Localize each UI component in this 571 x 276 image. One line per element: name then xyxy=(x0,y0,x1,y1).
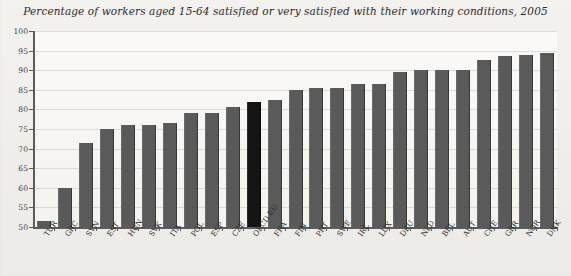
y-axis-tick-label: 100 xyxy=(4,27,28,36)
gridline xyxy=(33,31,557,32)
bar-svn[interactable] xyxy=(79,143,93,227)
bar-deu[interactable] xyxy=(393,72,407,227)
bar-nld[interactable] xyxy=(414,70,428,227)
chart-title: Percentage of workers aged 15-64 satisfi… xyxy=(0,5,571,17)
bar-prt[interactable] xyxy=(309,88,323,227)
bar-bel[interactable] xyxy=(435,70,449,227)
bar-pol[interactable] xyxy=(184,113,198,227)
bar-gbr[interactable] xyxy=(498,56,512,227)
y-axis-tick-label: 95 xyxy=(4,47,28,56)
bar-oecd-eu[interactable] xyxy=(247,102,261,227)
bar-cze[interactable] xyxy=(226,107,240,227)
gridline xyxy=(33,51,557,52)
bar-svk[interactable] xyxy=(142,125,156,227)
y-axis-tick-label: 90 xyxy=(4,66,28,75)
chart-page: Percentage of workers aged 15-64 satisfi… xyxy=(0,0,571,276)
y-axis-tick-label: 80 xyxy=(4,105,28,114)
bar-dnk[interactable] xyxy=(540,53,554,227)
x-axis-category-labels: TURGRCSVNESTHUNSVKITAPOLESPCZEOECD EUFRA… xyxy=(33,233,558,276)
bar-ita[interactable] xyxy=(163,123,177,227)
bar-irl[interactable] xyxy=(351,84,365,227)
y-axis-tick-label: 55 xyxy=(4,203,28,212)
bar-che[interactable] xyxy=(477,60,491,227)
bar-aut[interactable] xyxy=(456,70,470,227)
bar-fin[interactable] xyxy=(289,90,303,227)
bar-hun[interactable] xyxy=(121,125,135,227)
bar-nor[interactable] xyxy=(519,55,533,227)
y-axis-tick-label: 85 xyxy=(4,86,28,95)
y-axis-tick-label: 50 xyxy=(4,223,28,232)
bar-esp[interactable] xyxy=(205,113,219,227)
y-axis-tick-label: 75 xyxy=(4,125,28,134)
y-axis-tick-label: 60 xyxy=(4,184,28,193)
y-axis-tick-label: 65 xyxy=(4,164,28,173)
y-axis-tick-label: 70 xyxy=(4,145,28,154)
bar-lux[interactable] xyxy=(372,84,386,227)
bar-swe[interactable] xyxy=(330,88,344,227)
plot-area xyxy=(33,31,557,227)
y-axis-line xyxy=(33,31,35,228)
bar-est[interactable] xyxy=(100,129,114,227)
